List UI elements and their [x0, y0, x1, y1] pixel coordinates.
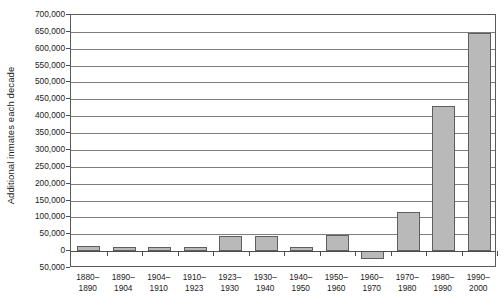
bar[interactable] — [468, 33, 491, 252]
bar[interactable] — [397, 212, 420, 251]
x-axis-tick-label-line2: 2000 — [461, 283, 497, 294]
bar-slot — [320, 15, 356, 266]
y-axis-tick-label: 450,000 — [35, 94, 65, 102]
x-axis-tick-labels: 1880–18901890–19041904–19101910–19231923… — [70, 272, 496, 306]
x-axis-tick-label-line2: 1990 — [425, 283, 461, 294]
y-axis-tick-label: 550,000 — [35, 60, 65, 68]
x-axis-tick-label-line1: 1890– — [112, 272, 135, 282]
y-axis-tick-label: 500,000 — [35, 77, 65, 85]
y-axis-tick-label: 50,000 — [40, 229, 65, 237]
x-axis-tick-label: 1990–2000 — [461, 272, 497, 294]
x-axis-tick-label-line1: 1970– — [396, 272, 419, 282]
x-axis-tick-label-line2: 1950 — [283, 283, 319, 294]
x-axis-tick-label-line1: 1910– — [183, 272, 206, 282]
x-axis-tick-label-line1: 1930– — [254, 272, 277, 282]
x-axis-tick-label: 1890–1904 — [106, 272, 142, 294]
y-axis-tick-label: 50,000 — [40, 263, 65, 271]
bar-slot — [355, 15, 391, 266]
y-axis-tick-label: 350,000 — [35, 128, 65, 136]
y-axis-tick-mark — [66, 267, 70, 268]
x-axis-tick-label-line2: 1890 — [70, 283, 106, 294]
y-axis-tick-label: 0 — [60, 246, 65, 254]
x-axis-tick-label-line1: 1940– — [289, 272, 312, 282]
x-axis-tick-label: 1904–1910 — [141, 272, 177, 294]
x-axis-tick-label-line2: 1960 — [319, 283, 355, 294]
x-axis-tick-label-line2: 1910 — [141, 283, 177, 294]
bar-slot — [462, 15, 498, 266]
x-axis-tick-label: 1880–1890 — [70, 272, 106, 294]
x-axis-tick-label: 1970–1980 — [390, 272, 426, 294]
plot-area — [70, 14, 496, 267]
x-axis-tick-label-line1: 1923– — [218, 272, 241, 282]
x-axis-tick-label-line2: 1923 — [177, 283, 213, 294]
y-axis-tick-label: 300,000 — [35, 145, 65, 153]
x-axis-tick-label-line2: 1980 — [390, 283, 426, 294]
x-axis-tick-label: 1980–1990 — [425, 272, 461, 294]
bar[interactable] — [255, 236, 278, 252]
x-axis-tick-label-line1: 1950– — [325, 272, 348, 282]
bar-slot — [213, 15, 249, 266]
y-axis-tick-label: 700,000 — [35, 10, 65, 18]
bars-layer — [71, 15, 495, 266]
bar-slot — [426, 15, 462, 266]
y-axis-title: Additional inmates each decade — [0, 0, 22, 270]
x-axis-tick-label: 1930–1940 — [248, 272, 284, 294]
x-axis-tick-label: 1910–1923 — [177, 272, 213, 294]
bar[interactable] — [326, 235, 349, 251]
zero-baseline — [71, 251, 495, 252]
bar[interactable] — [432, 106, 455, 251]
bar-slot — [391, 15, 427, 266]
x-axis-tick-label-line2: 1940 — [248, 283, 284, 294]
x-axis-tick-label-line2: 1904 — [106, 283, 142, 294]
y-axis-tick-labels: 700,000650,000600,000550,000500,000450,0… — [22, 0, 70, 306]
bar-slot — [71, 15, 107, 266]
bar-chart: Additional inmates each decade 700,00065… — [0, 0, 504, 306]
y-axis-tick-label: 200,000 — [35, 179, 65, 187]
x-axis-tick-label-line1: 1980– — [431, 272, 454, 282]
bar-slot — [107, 15, 143, 266]
bar-slot — [284, 15, 320, 266]
bar-slot — [178, 15, 214, 266]
x-axis-tick-label-line1: 1990– — [467, 272, 490, 282]
bar[interactable] — [219, 236, 242, 251]
x-axis-tick-label-line1: 1904– — [147, 272, 170, 282]
x-axis-tick-label-line1: 1880– — [76, 272, 99, 282]
bar[interactable] — [361, 251, 384, 258]
y-axis-tick-label: 250,000 — [35, 162, 65, 170]
x-axis-tick-label: 1950–1960 — [319, 272, 355, 294]
y-axis-tick-label: 100,000 — [35, 212, 65, 220]
bar-slot — [142, 15, 178, 266]
bar-slot — [249, 15, 285, 266]
x-axis-tick-label: 1923–1930 — [212, 272, 248, 294]
x-axis-tick-label: 1940–1950 — [283, 272, 319, 294]
x-axis-tick-mark — [497, 251, 498, 256]
x-axis-tick-label: 1960–1970 — [354, 272, 390, 294]
y-axis-tick-label: 400,000 — [35, 111, 65, 119]
y-axis-title-label: Additional inmates each decade — [6, 66, 17, 204]
y-axis-tick-label: 600,000 — [35, 44, 65, 52]
y-axis-tick-label: 650,000 — [35, 27, 65, 35]
y-axis-tick-label: 150,000 — [35, 195, 65, 203]
x-axis-tick-label-line2: 1970 — [354, 283, 390, 294]
x-axis-tick-label-line2: 1930 — [212, 283, 248, 294]
x-axis-tick-label-line1: 1960– — [360, 272, 383, 282]
